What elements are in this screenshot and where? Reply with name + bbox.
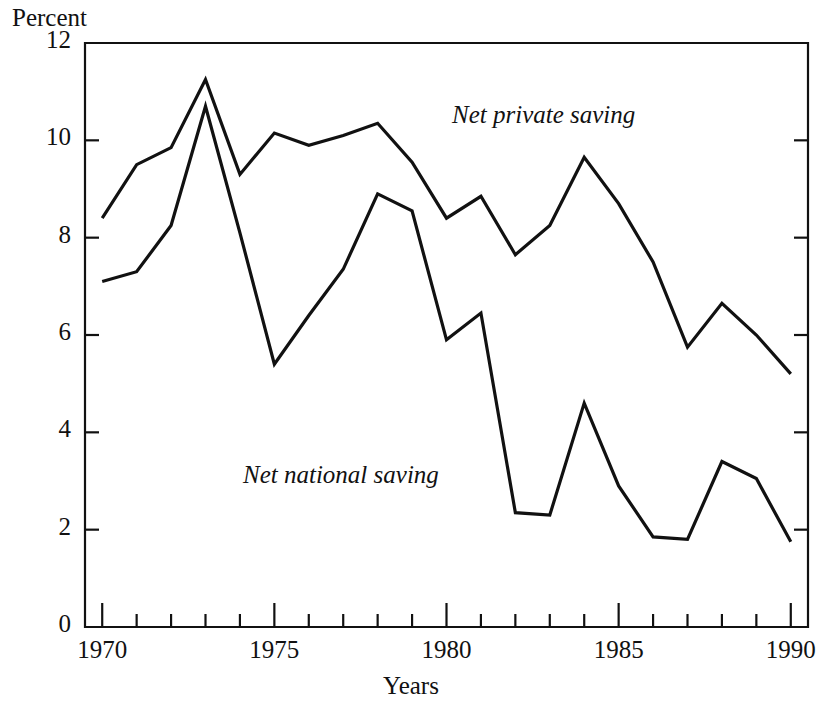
series-line-net-private-saving: [102, 80, 791, 374]
chart-figure: Percent 024681012 19701975198019851990 N…: [0, 0, 822, 714]
x-tick-label: 1970: [47, 636, 157, 664]
data-series-lines: [102, 80, 791, 542]
y-tick-label: 12: [11, 26, 71, 54]
x-tick-label: 1990: [736, 636, 822, 664]
x-tick-label: 1985: [564, 636, 674, 664]
series-label-net-private-saving: Net private saving: [452, 101, 635, 129]
x-tick-label: 1980: [392, 636, 502, 664]
y-tick-label: 8: [11, 221, 71, 249]
y-tick-label: 0: [11, 610, 71, 638]
chart-plot-area: [0, 0, 822, 714]
x-axis-title: Years: [0, 672, 822, 700]
x-tick-label: 1975: [219, 636, 329, 664]
series-line-net-national-saving: [102, 106, 791, 542]
y-tick-label: 10: [11, 123, 71, 151]
x-axis-ticks: [102, 603, 791, 627]
y-tick-label: 2: [11, 513, 71, 541]
y-tick-label: 6: [11, 318, 71, 346]
series-label-net-national-saving: Net national saving: [243, 461, 439, 489]
y-tick-label: 4: [11, 415, 71, 443]
